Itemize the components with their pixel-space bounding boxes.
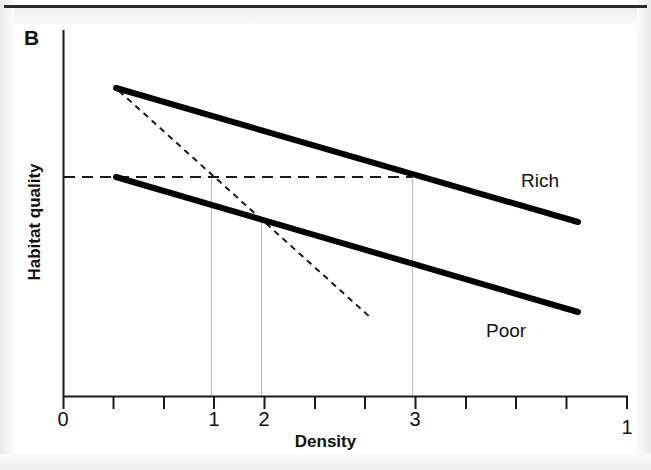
x-tick-label-0: 0 <box>48 408 78 431</box>
x-tick-label-3: 3 <box>400 408 430 431</box>
x-tick-label-1: 1 <box>199 408 229 431</box>
series-line-poor <box>116 177 578 312</box>
x-axis-ticks <box>64 396 628 409</box>
y-axis-title: Habitat quality <box>25 142 45 302</box>
x-tick-label-2: 2 <box>249 408 279 431</box>
series-line-rich <box>116 88 578 222</box>
figure-panel-b: B <box>0 0 651 470</box>
chart-canvas <box>0 0 651 470</box>
series-label-rich: Rich <box>521 170 559 192</box>
series-label-poor: Poor <box>486 320 526 342</box>
x-axis-title: Density <box>0 432 651 452</box>
